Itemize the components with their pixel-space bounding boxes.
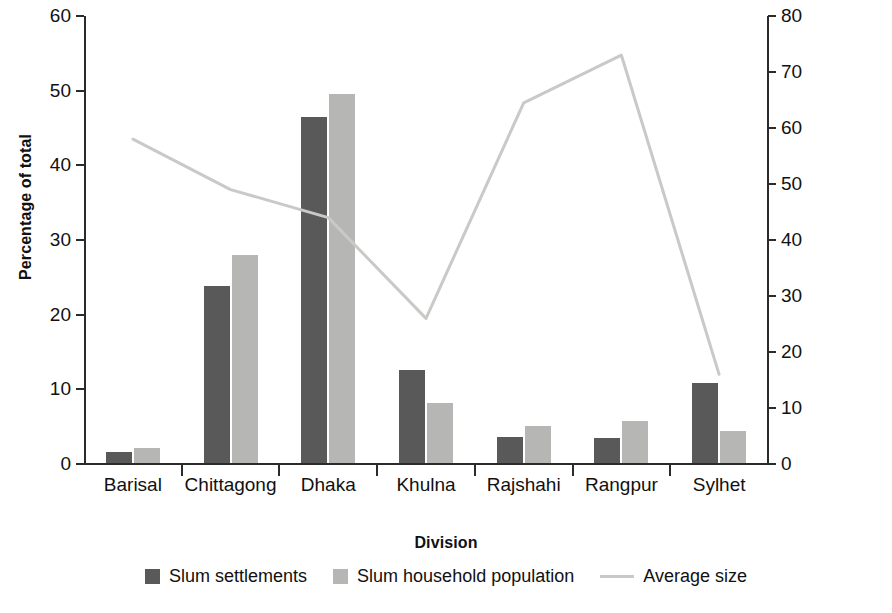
- y-axis-left-title: Percentage of total: [17, 97, 35, 317]
- y-axis-right-tick-label: 60: [781, 118, 802, 137]
- y-axis-right-tick-label: 30: [781, 286, 802, 305]
- legend-label: Slum settlements: [169, 566, 307, 587]
- y-axis-left-tick: [76, 314, 84, 316]
- legend-item: Slum household population: [333, 566, 574, 587]
- y-axis-left-tick-label: 20: [50, 305, 71, 324]
- y-axis-right-tick-label: 0: [781, 454, 792, 473]
- legend-item: Average size: [600, 566, 747, 587]
- y-axis-right-tick: [768, 239, 776, 241]
- legend-item: Slum settlements: [145, 566, 307, 587]
- y-axis-right-tick-label: 40: [781, 230, 802, 249]
- legend-label: Slum household population: [357, 566, 574, 587]
- x-axis-category-label: Dhaka: [279, 474, 377, 496]
- dark-square-swatch: [145, 569, 160, 584]
- y-axis-left-tick: [76, 463, 84, 465]
- y-axis-left-tick-label: 30: [50, 230, 71, 249]
- y-axis-right-tick: [768, 15, 776, 17]
- y-axis-left-tick: [76, 15, 84, 17]
- y-axis-right-tick: [768, 351, 776, 353]
- y-axis-right-tick: [768, 407, 776, 409]
- line-swatch: [600, 575, 634, 578]
- y-axis-left-tick-label: 40: [50, 155, 71, 174]
- x-axis-category-label: Chittagong: [182, 474, 280, 496]
- x-axis-category-label: Barisal: [84, 474, 182, 496]
- y-axis-right-tick: [768, 127, 776, 129]
- x-axis-category-label: Sylhet: [670, 474, 768, 496]
- y-axis-right-tick-label: 50: [781, 174, 802, 193]
- y-axis-left-tick: [76, 90, 84, 92]
- y-axis-right-tick-label: 70: [781, 62, 802, 81]
- x-axis-category-label: Rangpur: [573, 474, 671, 496]
- y-axis-right-tick-label: 20: [781, 342, 802, 361]
- y-axis-right-tick: [768, 463, 776, 465]
- x-axis-title: Division: [0, 534, 892, 552]
- y-axis-left-tick: [76, 164, 84, 166]
- y-axis-left-tick-label: 0: [60, 454, 71, 473]
- y-axis-right-tick: [768, 295, 776, 297]
- plot-area: 0102030405060 01020304050607080: [84, 16, 768, 464]
- y-axis-left-tick-label: 60: [50, 6, 71, 25]
- y-axis-left-tick: [76, 388, 84, 390]
- y-axis-right-tick: [768, 183, 776, 185]
- legend-label: Average size: [643, 566, 747, 587]
- x-axis-category-label: Rajshahi: [475, 474, 573, 496]
- y-axis-left-tick-label: 50: [50, 81, 71, 100]
- y-axis-right-tick: [768, 71, 776, 73]
- y-axis-right-tick-label: 80: [781, 6, 802, 25]
- line-series-average-size: [84, 16, 768, 465]
- y-axis-right-tick-label: 10: [781, 398, 802, 417]
- chart-figure: Percentage of total Average households p…: [0, 0, 892, 613]
- y-axis-left-tick-label: 10: [50, 379, 71, 398]
- x-axis-category-label: Khulna: [377, 474, 475, 496]
- light-square-swatch: [333, 569, 348, 584]
- y-axis-left-tick: [76, 239, 84, 241]
- chart-legend: Slum settlementsSlum household populatio…: [0, 566, 892, 587]
